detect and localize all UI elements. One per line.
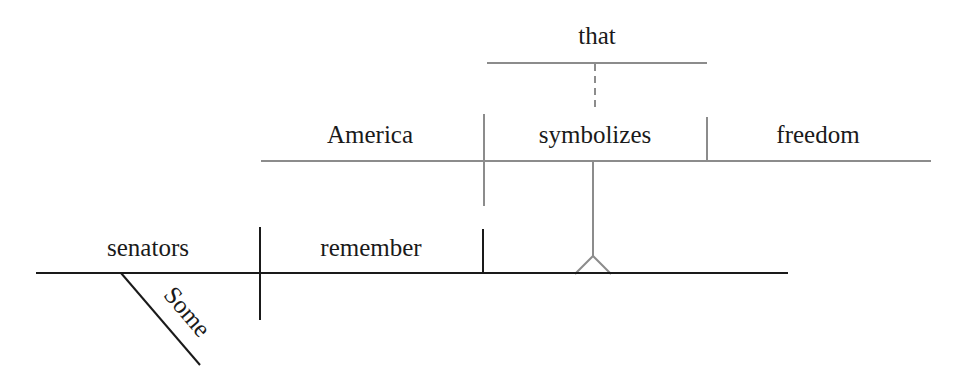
word-remember: remember: [320, 234, 422, 261]
diagram-canvas: that America symbolizes freedom senators…: [0, 0, 974, 391]
pedestal-fork: [575, 256, 611, 274]
word-symbolizes: symbolizes: [539, 121, 652, 148]
word-america: America: [327, 121, 413, 148]
sentence-diagram: that America symbolizes freedom senators…: [0, 0, 974, 391]
word-freedom: freedom: [776, 121, 860, 148]
word-that: that: [578, 22, 616, 49]
word-senators: senators: [107, 234, 189, 261]
word-some: Some: [159, 281, 217, 342]
